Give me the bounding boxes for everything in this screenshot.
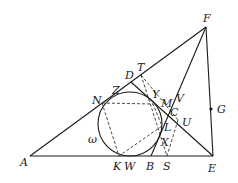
label-Z: Z bbox=[111, 84, 120, 97]
label-B: B bbox=[145, 160, 154, 173]
circle-omega bbox=[98, 92, 162, 156]
label-U: U bbox=[182, 116, 192, 129]
point-labels: F T D Z N Y M V C U G L X ω A K W B S E bbox=[19, 12, 226, 175]
label-X: X bbox=[160, 136, 170, 149]
geometry-diagram: F T D Z N Y M V C U G L X ω A K W B S E bbox=[0, 0, 238, 183]
label-A: A bbox=[19, 156, 28, 169]
label-F: F bbox=[202, 12, 211, 25]
point-G-dot bbox=[209, 107, 212, 110]
label-N: N bbox=[91, 94, 102, 107]
label-D: D bbox=[124, 69, 134, 82]
label-S: S bbox=[163, 160, 171, 173]
label-K: K bbox=[112, 160, 122, 173]
dashed-quad-NYLK bbox=[102, 103, 162, 156]
label-C: C bbox=[170, 106, 179, 119]
label-G: G bbox=[217, 103, 226, 116]
segment-FE bbox=[206, 27, 213, 156]
label-E: E bbox=[207, 162, 216, 175]
label-L: L bbox=[163, 121, 171, 134]
label-omega: ω bbox=[88, 133, 97, 146]
segment-DE bbox=[131, 82, 213, 156]
label-W: W bbox=[124, 160, 137, 173]
label-Y: Y bbox=[152, 88, 161, 101]
label-V: V bbox=[176, 92, 185, 105]
solid-segments bbox=[30, 27, 213, 156]
